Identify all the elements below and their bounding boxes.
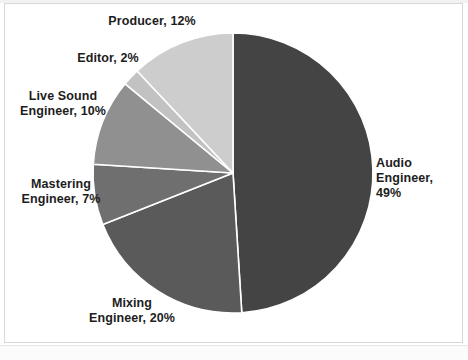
slice-label-editor: Editor, 2% — [58, 51, 158, 66]
pie-slice-group — [93, 33, 373, 313]
slice-label-audio-engineer: Audio Engineer, 49% — [376, 156, 468, 201]
slice-label-producer: Producer, 12% — [92, 14, 212, 29]
slice-label-mixing-engineer: Mixing Engineer, 20% — [72, 296, 192, 326]
pie-chart-screenshot: Producer, 12% Editor, 2% Live Sound Engi… — [0, 0, 468, 360]
pie-slice-audio-engineer[interactable] — [233, 33, 373, 313]
scan-edge-bottom — [0, 345, 468, 360]
slice-label-mastering-engineer: Mastering Engineer, 7% — [6, 177, 116, 207]
slice-label-live-sound-engineer: Live Sound Engineer, 10% — [8, 89, 118, 119]
